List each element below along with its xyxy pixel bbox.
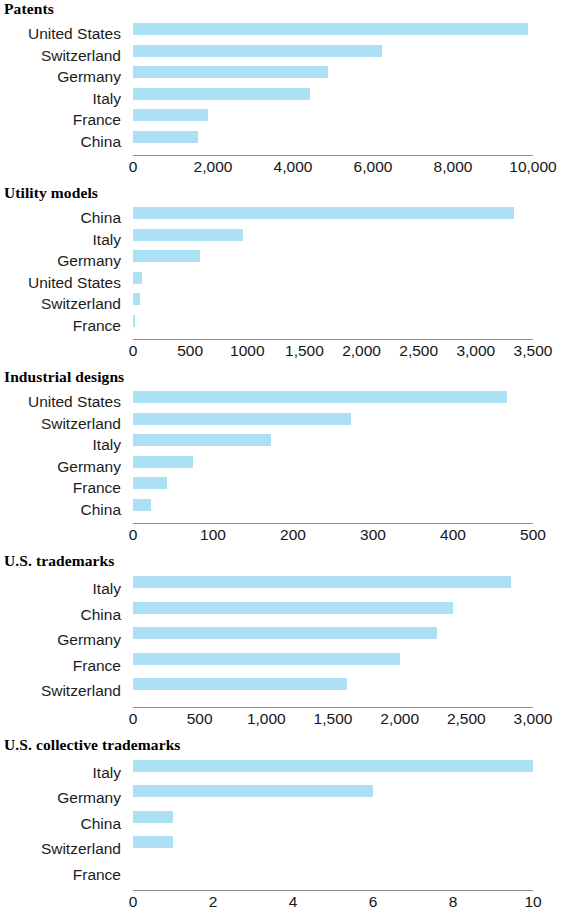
x-axis: 05001,0001,5002,0002,5003,000 [0,707,561,729]
bar-row: France [0,315,561,337]
bar [133,627,437,639]
bar-row: Italy [0,229,561,251]
axis-line [133,155,533,156]
panel-title: U.S. trademarks [0,552,561,570]
bar-track [128,602,561,628]
bar [133,131,198,143]
bar-track [128,250,561,272]
category-label: Switzerland [0,415,128,432]
bar-row: Switzerland [0,45,561,67]
bar [133,88,310,100]
plot-area: ItalyGermanyChinaSwitzerlandFrance [0,754,561,891]
bar-row: Switzerland [0,836,561,862]
x-axis-tick-label: 6 [369,892,378,911]
axis-line [133,523,533,524]
bar-track [128,229,561,251]
bar-track [128,23,561,45]
x-axis-tick-label: 8 [449,892,458,911]
category-label: Germany [0,789,128,806]
bar-row: Germany [0,785,561,811]
category-label: China [0,501,128,518]
x-axis-tick-label: 2 [209,892,218,911]
plot-area: ChinaItalyGermanyUnited StatesSwitzerlan… [0,202,561,339]
x-axis-tick-label: 100 [200,525,226,544]
bar [133,293,140,305]
bar [133,66,328,78]
x-axis: 050010001,5002,0002,5003,0003,500 [0,339,561,361]
bar-row: Germany [0,66,561,88]
bar [133,391,507,403]
x-axis-tick-label: 2,500 [447,709,486,728]
bar-row: United States [0,23,561,45]
x-axis-tick-label: 300 [360,525,386,544]
bar [133,23,528,35]
x-axis-tick-label: 6,000 [354,157,393,176]
plot-area: ItalyChinaGermanyFranceSwitzerland [0,570,561,707]
x-axis-tick-label: 400 [440,525,466,544]
bar-track [128,109,561,131]
x-axis-tick-label: 8,000 [434,157,473,176]
bar [133,109,208,121]
bar-row: Switzerland [0,678,561,704]
x-axis: 0246810 [0,890,561,911]
bar-row: China [0,499,561,521]
bar-track [128,293,561,315]
category-label: Italy [0,580,128,597]
bar [133,785,373,797]
x-axis-tick-label: 500 [520,525,546,544]
bar [133,760,533,772]
x-axis-tick-label: 2,000 [380,709,419,728]
bar-row: United States [0,272,561,294]
chart-panel: U.S. collective trademarksItalyGermanyCh… [0,736,561,911]
bar-track [128,88,561,110]
x-axis-tick-label: 1,000 [247,709,286,728]
bar [133,207,514,219]
category-label: Germany [0,252,128,269]
axis-line [133,339,533,340]
bar-row: Italy [0,576,561,602]
x-axis-tick-label: 0 [129,157,138,176]
bar-track [128,391,561,413]
x-axis-tick-label: 10 [524,892,541,911]
chart-panel: PatentsUnited StatesSwitzerlandGermanyIt… [0,0,561,184]
bar-track [128,627,561,653]
category-label: Germany [0,68,128,85]
category-label: France [0,657,128,674]
category-label: Switzerland [0,682,128,699]
panel-title: U.S. collective trademarks [0,736,561,754]
category-label: Italy [0,90,128,107]
bar [133,434,271,446]
category-label: Italy [0,764,128,781]
bar-row: China [0,207,561,229]
plot-area: United StatesSwitzerlandGermanyItalyFran… [0,18,561,155]
x-axis-tick-label: 0 [129,525,138,544]
category-label: Italy [0,436,128,453]
x-axis-tick-label: 1000 [230,341,264,360]
category-label: Germany [0,631,128,648]
bar-track [128,477,561,499]
category-label: Italy [0,231,128,248]
chart-panel: Utility modelsChinaItalyGermanyUnited St… [0,184,561,368]
bar [133,250,200,262]
bar [133,811,173,823]
bar [133,678,347,690]
category-label: United States [0,25,128,42]
x-axis-tick-label: 0 [129,341,138,360]
axis-line [133,890,533,891]
x-axis-tick-label: 10,000 [509,157,556,176]
x-axis-tick-label: 2,500 [399,341,438,360]
panel-title: Patents [0,0,561,18]
category-label: China [0,606,128,623]
bar [133,477,167,489]
bar [133,456,193,468]
category-label: United States [0,274,128,291]
bar-track [128,785,561,811]
bar-track [128,315,561,337]
bar-row: China [0,131,561,153]
bar-track [128,836,561,862]
bar-track [128,499,561,521]
category-label: Switzerland [0,295,128,312]
category-label: China [0,133,128,150]
bar [133,229,243,241]
